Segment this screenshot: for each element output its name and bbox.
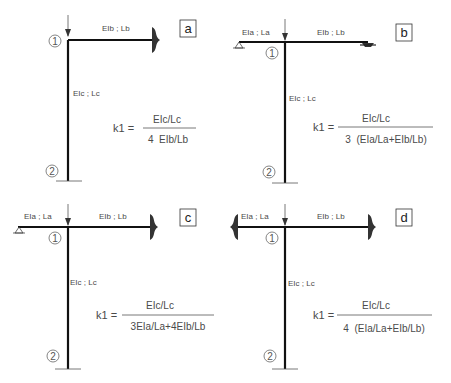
- formula-numerator: EIc/Lc: [362, 300, 390, 311]
- panel-c: EIa ; La EIb ; Lb EIc ; Lc 1 2 c k1 = EI…: [13, 204, 214, 369]
- node-1-label: 1: [269, 48, 275, 59]
- load-arrow-icon: [282, 218, 288, 226]
- column-label: EIc ; Lc: [289, 94, 316, 103]
- fixed-support-icon: [150, 214, 158, 240]
- node-1-label: 1: [269, 233, 275, 244]
- node-2-label: 2: [266, 167, 272, 178]
- formula-numerator: EIc/Lc: [362, 113, 390, 124]
- fixed-support-right-icon: [368, 214, 376, 240]
- beam-right-label: EIb ; Lb: [317, 212, 345, 221]
- panel-letter: d: [400, 210, 407, 225]
- load-arrow-icon: [282, 33, 288, 41]
- formula-denominator: 4 EIb/Lb: [148, 134, 188, 145]
- column-label: EIc ; Lc: [70, 278, 97, 287]
- column-label: EIc ; Lc: [73, 89, 100, 98]
- column-label: EIc ; Lc: [288, 279, 315, 288]
- frame-diagrams: EIb ; Lb EIc ; Lc 1 2 a k1 = EIc/Lc 4 EI…: [0, 0, 451, 383]
- beam-left-label: EIa ; La: [24, 212, 52, 221]
- node-1-label: 1: [52, 233, 58, 244]
- formula-denominator: 4 (EIa/La+EIb/Lb): [343, 323, 424, 334]
- formula-lhs: k1 =: [313, 121, 334, 133]
- panel-b: EIa ; La EIb ; Lb EIc ; Lc 1 2 b k1 = EI…: [233, 19, 433, 183]
- fixed-support-icon: [152, 27, 160, 53]
- panel-letter: a: [184, 21, 192, 36]
- beam-right-label: EIb ; Lb: [317, 28, 345, 37]
- panel-a: EIb ; Lb EIc ; Lc 1 2 a k1 = EIc/Lc 4 EI…: [46, 15, 196, 181]
- load-arrow-icon: [65, 218, 71, 226]
- formula-numerator: EIc/Lc: [153, 114, 181, 125]
- node-1-label: 1: [52, 36, 58, 47]
- node-2-label: 2: [50, 351, 56, 362]
- panel-letter: b: [400, 25, 407, 40]
- beam-left-label: EIa ; La: [242, 28, 270, 37]
- beam-left-label: EIa ; La: [241, 212, 269, 221]
- formula-denominator: 3 (EIa/La+EIb/Lb): [345, 134, 426, 145]
- node-2-label: 2: [49, 166, 55, 177]
- formula-lhs: k1 =: [313, 309, 334, 321]
- fixed-support-left-icon: [230, 214, 238, 240]
- formula-denominator: 3EIa/La+4EIb/Lb: [131, 321, 206, 332]
- beam-right-label: EIb ; Lb: [99, 212, 127, 221]
- formula-lhs: k1 =: [96, 309, 117, 321]
- panel-letter: c: [185, 210, 192, 225]
- beam-right-label: EIb ; Lb: [102, 24, 130, 33]
- panel-d: EIa ; La EIb ; Lb EIc ; Lc 1 2 d k1 = EI…: [230, 204, 432, 369]
- formula-lhs: k1 =: [113, 122, 134, 134]
- load-arrow-icon: [65, 29, 71, 37]
- formula-numerator: EIc/Lc: [146, 300, 174, 311]
- node-2-label: 2: [267, 351, 273, 362]
